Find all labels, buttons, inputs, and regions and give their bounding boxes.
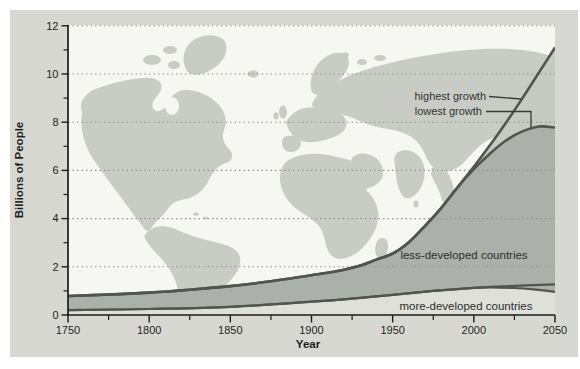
x-tick-label: 1800 (137, 324, 161, 336)
more-developed-countries-label: more-developed countries (400, 300, 533, 312)
x-tick-label: 1950 (380, 324, 404, 336)
y-tick-label: 6 (52, 164, 58, 176)
highest-growth-label: highest growth (414, 90, 486, 102)
less-developed-countries-label: less-developed countries (400, 249, 527, 261)
x-tick-label: 2000 (462, 324, 486, 336)
x-axis-title: Year (296, 338, 321, 350)
y-tick-label: 4 (52, 212, 58, 224)
population-growth-chart: 0246810121750180018501900195020002050 hi… (0, 0, 580, 369)
y-tick-label: 0 (52, 309, 58, 321)
y-tick-label: 2 (52, 261, 58, 273)
x-tick-label: 1850 (218, 324, 242, 336)
lowest-growth-label: lowest growth (415, 105, 482, 117)
x-tick-label: 2050 (543, 324, 567, 336)
x-tick-label: 1900 (299, 324, 323, 336)
y-tick-label: 8 (52, 116, 58, 128)
y-tick-label: 12 (46, 20, 58, 32)
x-tick-label: 1750 (56, 324, 80, 336)
y-tick-label: 10 (46, 68, 58, 80)
y-axis-title: Billions of People (13, 122, 25, 218)
